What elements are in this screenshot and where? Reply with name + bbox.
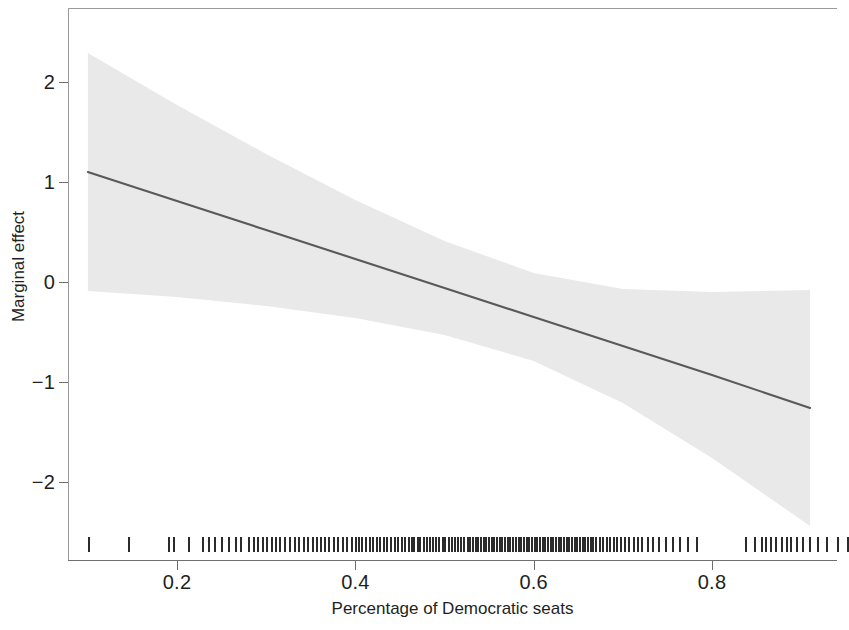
rug-tick [208, 537, 210, 552]
rug-tick [595, 537, 597, 552]
rug-tick [745, 537, 747, 552]
rug-tick [550, 537, 552, 552]
rug-tick [390, 537, 392, 552]
rug-tick [307, 537, 309, 552]
y-axis-tick-mark [59, 382, 68, 383]
x-axis-tick-mark [712, 561, 713, 570]
rug-tick [303, 537, 305, 552]
rug-tick [761, 537, 763, 552]
rug-tick [413, 537, 415, 552]
rug-tick [620, 537, 622, 552]
rug-tick [320, 537, 322, 552]
x-axis-tick-mark [534, 561, 535, 570]
rug-tick [214, 537, 216, 552]
rug-tick [316, 537, 318, 552]
rug-tick [168, 537, 170, 552]
rug-tick [624, 537, 626, 552]
rug-tick [658, 537, 660, 552]
rug-tick [426, 537, 428, 552]
rug-tick [765, 537, 767, 552]
rug-tick [221, 537, 223, 552]
rug-tick [294, 537, 296, 552]
rug-tick [342, 537, 344, 552]
rug-tick [240, 537, 242, 552]
rug-tick [790, 537, 792, 552]
rug-tick [469, 537, 471, 552]
rug-tick [781, 537, 783, 552]
rug-tick [432, 537, 434, 552]
rug-tick [687, 537, 689, 552]
x-axis-tick-label: 0.6 [489, 572, 579, 592]
rug-tick [802, 537, 804, 552]
rug-tick [590, 537, 592, 552]
rug-tick [775, 537, 777, 552]
rug-tick [457, 537, 459, 552]
rug-tick [248, 537, 250, 552]
rug-tick [188, 537, 190, 552]
rug-tick [672, 537, 674, 552]
rug-tick [628, 537, 630, 552]
rug-tick [837, 537, 839, 552]
rug-tick [228, 537, 230, 552]
rug-tick [401, 537, 403, 552]
y-axis-tick-mark [59, 282, 68, 283]
y-axis-tick-label: −1 [11, 372, 55, 392]
rug-tick [419, 537, 421, 552]
rug-tick [665, 537, 667, 552]
rug-tick [253, 537, 255, 552]
rug-tick [483, 537, 485, 552]
rug-tick [786, 537, 788, 552]
rug-tick [351, 537, 353, 552]
rug-tick [609, 537, 611, 552]
rug-tick [383, 537, 385, 552]
rug-tick [438, 537, 440, 552]
y-axis-tick-label: 2 [11, 72, 55, 92]
y-axis-tick-mark [59, 182, 68, 183]
x-axis-tick-label: 0.2 [132, 572, 222, 592]
rug-tick [394, 537, 396, 552]
rug-tick [298, 537, 300, 552]
rug-tick [266, 537, 268, 552]
rug-tick [404, 537, 406, 552]
rug-tick [372, 537, 374, 552]
rug-tick [809, 537, 811, 552]
rug-tick [202, 537, 204, 552]
rug-tick [606, 537, 608, 552]
rug-tick [599, 537, 601, 552]
rug-tick [289, 537, 291, 552]
rug-tick [451, 537, 453, 552]
rug-tick [463, 537, 465, 552]
rug-tick [358, 537, 360, 552]
rug-tick [652, 537, 654, 552]
x-axis-tick-label: 0.8 [667, 572, 757, 592]
rug-tick [637, 537, 639, 552]
rug-tick [817, 537, 819, 552]
rug-tick [271, 537, 273, 552]
rug-tick [235, 537, 237, 552]
rug-tick [369, 537, 371, 552]
rug-tick [284, 537, 286, 552]
rug-tick [696, 537, 698, 552]
rug-tick [275, 537, 277, 552]
rug-tick [365, 537, 367, 552]
rug-tick [536, 537, 538, 552]
rug-tick [337, 537, 339, 552]
rug-tick [633, 537, 635, 552]
rug-tick [444, 537, 446, 552]
rug-tick [563, 537, 565, 552]
rug-tick [312, 537, 314, 552]
rug-tick [796, 537, 798, 552]
rug-tick [376, 537, 378, 552]
rug-tick [641, 537, 643, 552]
rug-tick [496, 537, 498, 552]
rug-tick [679, 537, 681, 552]
rug-tick [754, 537, 756, 552]
rug-tick [262, 537, 264, 552]
rug-tick [257, 537, 259, 552]
rug-tick [770, 537, 772, 552]
rug-tick [386, 537, 388, 552]
rug-tick [328, 537, 330, 552]
rug-tick [333, 537, 335, 552]
